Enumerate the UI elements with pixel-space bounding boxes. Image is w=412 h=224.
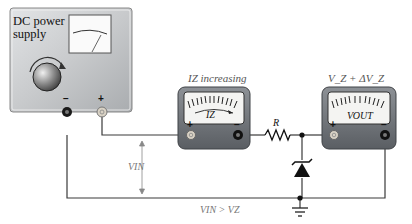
voltage-knob [33, 63, 61, 91]
voltmeter-face-label: VOUT [347, 110, 373, 121]
power-supply-title: DC power supply [13, 15, 83, 41]
voltmeter-minus-label: − [381, 119, 387, 130]
vin-label: VIN [128, 161, 144, 172]
ammeter-face-label: IZ [206, 109, 215, 120]
psu-minus-label: − [63, 93, 69, 104]
voltmeter-plus-terminal [330, 131, 339, 140]
psu-plus-terminal [97, 107, 107, 117]
ammeter-plus-label: + [187, 119, 193, 130]
ground-icon [292, 208, 308, 216]
resistor-label: R [273, 117, 279, 128]
psu-plus-label: + [98, 93, 104, 104]
voltmeter-top-label: V_Z + ΔV_Z [328, 72, 384, 84]
junction-node [299, 132, 304, 137]
ammeter-top-label: IZ increasing [188, 72, 247, 84]
resistor-icon [265, 130, 290, 140]
ammeter-plus-terminal [187, 131, 196, 140]
junction-node [297, 195, 302, 200]
condition-label: VIN > VZ [200, 204, 240, 215]
zener-regulation-diagram: DC power supply − + IZ increasing IZ + −… [0, 0, 412, 224]
voltmeter-plus-label: + [330, 119, 336, 130]
zener-diode-icon [292, 159, 312, 177]
ammeter-minus-label: − [234, 119, 240, 130]
